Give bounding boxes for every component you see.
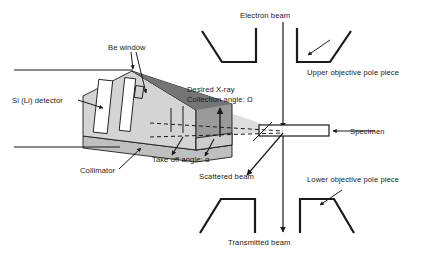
scattered-beam-arrow [247, 133, 283, 175]
xray-detector-geometry-diagram: Be window Si (Li) detector Collimator De… [0, 0, 433, 259]
lower-right-pole-piece [300, 199, 354, 233]
label-collimator: Collimator [80, 166, 115, 176]
label-specimen: Specimen [350, 127, 385, 137]
lower-left-pole-piece [200, 199, 255, 233]
upper-pole-pieces [202, 28, 351, 62]
label-si-li-detector: Si (Li) detector [12, 96, 63, 106]
label-lower-objective-pole-piece: Lower objective pole piece [307, 175, 399, 185]
label-collection-angle-line2: Collection angle: Ω [187, 95, 253, 105]
label-upper-objective-pole-piece: Upper objective pole piece [307, 68, 399, 78]
label-transmitted-beam: Transmitted beam [228, 238, 291, 248]
label-be-window: Be window [108, 43, 146, 53]
label-desired-xray-line1: Desired X-ray [187, 85, 235, 95]
upper-left-pole-piece [202, 28, 256, 62]
lower-pole-pieces [200, 199, 354, 233]
upper-right-pole-piece [297, 28, 351, 62]
scattered-beam-group [247, 133, 283, 175]
label-scattered-beam: Scattered beam [199, 172, 254, 182]
specimen-group [253, 122, 329, 141]
be-window-element [134, 86, 144, 99]
label-electron-beam: Electron beam [240, 11, 290, 21]
label-take-off-angle: Take off angle: α [152, 155, 209, 165]
leader-upper-pole-piece [308, 40, 330, 55]
leader-lower-pole-piece [320, 190, 342, 205]
leader-be-window-a [131, 52, 133, 69]
